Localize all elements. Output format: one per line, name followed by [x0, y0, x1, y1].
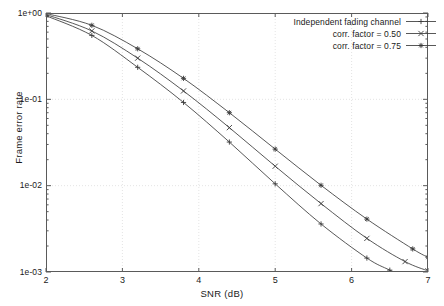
legend-label: Independent fading channel — [293, 17, 401, 27]
legend-item: corr. factor = 0.75 — [333, 40, 437, 51]
legend-marker-star — [405, 40, 437, 51]
y-tick-label: 1e+00 — [0, 8, 42, 18]
chart-legend: Independent fading channelcorr. factor =… — [289, 14, 439, 53]
legend-label: corr. factor = 0.75 — [333, 41, 401, 51]
chart-figure: 1e+001e-011e-021e-03 234567 Frame error … — [0, 0, 444, 306]
legend-item: corr. factor = 0.50 — [333, 28, 437, 39]
legend-label: corr. factor = 0.50 — [333, 29, 401, 39]
legend-marker-plus — [405, 16, 437, 27]
x-tick-label: 7 — [416, 275, 440, 285]
legend-item: Independent fading channel — [293, 16, 437, 27]
x-tick-label: 4 — [187, 275, 211, 285]
legend-marker-cross — [405, 28, 437, 39]
x-tick-label: 3 — [110, 275, 134, 285]
x-tick-label: 2 — [34, 275, 58, 285]
x-tick-label: 6 — [340, 275, 364, 285]
y-axis-title: Frame error rate — [13, 58, 24, 198]
x-axis-title: SNR (dB) — [0, 288, 444, 299]
x-tick-label: 5 — [263, 275, 287, 285]
